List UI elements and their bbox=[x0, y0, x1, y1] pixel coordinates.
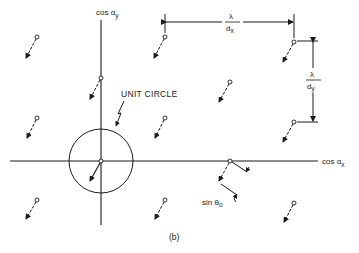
grating-lobe bbox=[219, 159, 232, 181]
grating-lobe bbox=[283, 120, 296, 142]
grating-lobe bbox=[155, 116, 167, 138]
horizontal-spacing-denominator: dx bbox=[226, 24, 234, 34]
vertical-spacing-dimension: λ dy bbox=[297, 41, 321, 122]
grating-lobes bbox=[26, 35, 296, 222]
grating-lobe-diagram: cos αy cos αx UNIT CIRCLE bbox=[0, 0, 359, 253]
horizontal-spacing-dimension: λ dx bbox=[165, 12, 294, 38]
x-axis-label: cos αx bbox=[322, 157, 345, 168]
scan-offset-label: sin θo bbox=[202, 198, 223, 208]
grating-lobe bbox=[219, 80, 232, 102]
grating-lobe bbox=[283, 40, 296, 62]
grating-lobe bbox=[27, 116, 39, 138]
grating-lobe bbox=[26, 35, 39, 58]
horizontal-spacing-numerator: λ bbox=[229, 12, 233, 21]
axes bbox=[10, 20, 318, 225]
grating-lobe bbox=[154, 35, 167, 58]
figure-caption: (b) bbox=[169, 232, 180, 242]
vertical-spacing-numerator: λ bbox=[310, 70, 314, 79]
unit-circle-leader-icon bbox=[116, 101, 124, 126]
unit-circle-label: UNIT CIRCLE bbox=[121, 89, 178, 99]
grating-lobe bbox=[155, 198, 167, 219]
grating-lobe bbox=[284, 201, 296, 222]
grating-lobe bbox=[26, 198, 39, 219]
y-axis-label: cos αy bbox=[96, 8, 119, 20]
vertical-spacing-denominator: dy bbox=[307, 82, 315, 93]
